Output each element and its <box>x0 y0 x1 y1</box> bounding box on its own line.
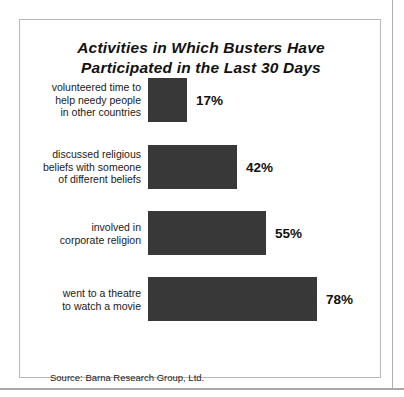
bar-value-label: 17% <box>187 93 223 108</box>
bar-chart-plot-area: volunteered time to help needy people in… <box>20 78 382 348</box>
bar-label: discussed religious beliefs with someone… <box>11 148 141 186</box>
source-note: Source: Barna Research Group, Ltd. <box>50 372 204 383</box>
table-row: went to a theatre to watch a movie 78% <box>20 277 382 321</box>
bar-label-line: to watch a movie <box>11 299 141 312</box>
bar-value-label: 42% <box>237 160 273 175</box>
bar-track: 78% <box>148 277 318 321</box>
page: Activities in Which Busters Have Partici… <box>0 0 404 397</box>
bar-track: 17% <box>148 78 318 122</box>
page-bottom-rule <box>0 388 404 390</box>
bar-track: 42% <box>148 145 318 189</box>
chart-title-line-2: Participated in the Last 30 Days <box>40 58 362 78</box>
bar-value-label: 55% <box>266 226 302 241</box>
table-row: discussed religious beliefs with someone… <box>20 145 382 189</box>
bar-label-line: of different beliefs <box>11 173 141 186</box>
bar-value-label: 78% <box>317 292 353 307</box>
bar-label-line: discussed religious <box>11 148 141 161</box>
bar-label-line: volunteered time to <box>11 81 141 94</box>
bar-fill <box>148 78 187 122</box>
bar-label: involved in corporate religion <box>11 221 141 246</box>
bar-label-line: beliefs with someone <box>11 161 141 174</box>
chart-title-line-1: Activities in Which Busters Have <box>40 38 362 58</box>
bar-label-line: help needy people <box>11 94 141 107</box>
bar-label-line: in other countries <box>11 106 141 119</box>
bar-label-line: went to a theatre <box>11 287 141 300</box>
table-row: volunteered time to help needy people in… <box>20 78 382 122</box>
bar-fill <box>148 277 317 321</box>
bar-label-line: corporate religion <box>11 233 141 246</box>
figure-frame: Activities in Which Busters Have Partici… <box>19 19 381 378</box>
bar-track: 55% <box>148 211 318 255</box>
bar-label: volunteered time to help needy people in… <box>11 81 141 119</box>
chart-title: Activities in Which Busters Have Partici… <box>40 38 362 78</box>
bar-label: went to a theatre to watch a movie <box>11 287 141 312</box>
bar-fill <box>148 211 266 255</box>
bar-fill <box>148 145 237 189</box>
table-row: involved in corporate religion 55% <box>20 211 382 255</box>
bar-label-line: involved in <box>11 221 141 234</box>
page-edge-rule <box>392 0 393 388</box>
